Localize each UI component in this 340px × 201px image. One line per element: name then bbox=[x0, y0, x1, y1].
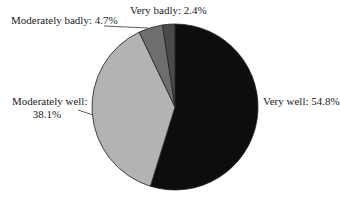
label-moderately-well-value: 38.1% bbox=[12, 108, 82, 121]
label-moderately-well: Moderately well: 38.1% bbox=[12, 95, 82, 121]
label-very-well: Very well: 54.8% bbox=[263, 95, 340, 108]
pie-slices bbox=[92, 24, 258, 190]
label-very-badly: Very badly: 2.4% bbox=[130, 4, 207, 17]
label-moderately-badly: Moderately badly: 4.7% bbox=[11, 14, 118, 27]
label-moderately-well-name: Moderately well: bbox=[12, 95, 82, 108]
